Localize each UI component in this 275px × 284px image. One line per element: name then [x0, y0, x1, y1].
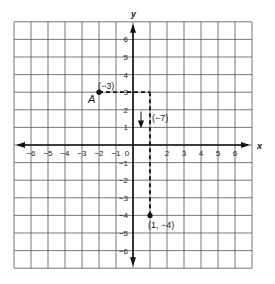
x-tick-label: −2 — [94, 149, 104, 158]
annotations: x y A (−3) (−7) (1, −4) — [87, 9, 263, 230]
x-tick-label: −6 — [26, 149, 36, 158]
horizontal-move-label: (−3) — [98, 81, 114, 91]
y-tick-label: −1 — [119, 159, 129, 168]
y-tick-label: −5 — [119, 229, 129, 238]
x-axis-left-arrow-icon — [16, 142, 25, 148]
end-point-label: (1, −4) — [148, 220, 174, 230]
x-axis-right-arrow-icon — [241, 142, 250, 148]
x-tick-label: −3 — [77, 149, 87, 158]
coordinate-grid-figure: −6−5−4−3−2−1023456654321−1−2−3−4−5−6 x y… — [0, 0, 275, 284]
y-axis-up-arrow-icon — [130, 24, 136, 33]
y-axis-down-arrow-icon — [130, 257, 136, 266]
y-tick-label: −2 — [119, 176, 129, 185]
y-tick-label: −3 — [119, 194, 129, 203]
y-tick-label: 6 — [124, 35, 129, 44]
x-tick-label: 5 — [216, 149, 221, 158]
vertical-move-label: (−7) — [152, 113, 168, 123]
axes — [16, 24, 250, 266]
x-tick-label: 2 — [165, 149, 170, 158]
point-a-label: A — [87, 93, 95, 105]
y-tick-label: −6 — [119, 247, 129, 256]
x-tick-label: −5 — [43, 149, 53, 158]
y-tick-label: 5 — [124, 53, 129, 62]
y-axis-label: y — [130, 9, 137, 19]
x-tick-label: −4 — [60, 149, 70, 158]
y-tick-label: 2 — [124, 106, 129, 115]
x-tick-label: 6 — [233, 149, 238, 158]
x-axis-label: x — [256, 141, 263, 151]
x-tick-label: −1 — [111, 149, 121, 158]
x-tick-label: 4 — [199, 149, 204, 158]
y-tick-label: 1 — [124, 123, 129, 132]
y-tick-label: −4 — [119, 211, 129, 220]
y-tick-label: 4 — [124, 71, 129, 80]
x-tick-label: 3 — [182, 149, 187, 158]
point-marker — [147, 213, 152, 218]
x-tick-label: 0 — [125, 149, 130, 158]
